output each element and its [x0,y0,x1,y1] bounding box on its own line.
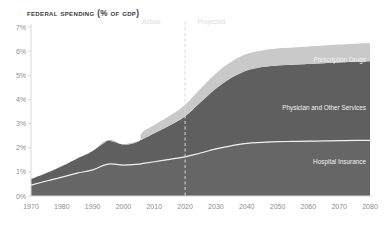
y-tick-label: 1% [16,168,26,175]
x-tick-label: 1970 [23,203,39,210]
x-tick-label: 2050 [270,203,286,210]
x-tick-label: 1990 [85,203,101,210]
y-tick-label: 5% [16,72,26,79]
chart-title: Federal Spending (% of GDP) [27,9,139,18]
series-label-hospital-insurance: Hospital Insurance [313,158,366,166]
y-tick-label: 0% [16,193,26,200]
x-tick-label: 2000 [116,203,132,210]
y-tick-label: 7% [16,24,26,31]
x-tick-label: 1980 [54,203,70,210]
y-tick-label: 4% [16,96,26,103]
x-tick-label: 2020 [177,203,193,210]
x-tick-label: 2010 [146,203,162,210]
x-tick-label: 2040 [239,203,255,210]
y-tick-label: 2% [16,144,26,151]
x-tick-label: 2060 [301,203,317,210]
series-label-prescription-drugs: Prescription Drugs [313,56,366,64]
era-label-projected: Projected [197,18,225,26]
area-chart-plot: 0%1%2%3%4%5%6%7%197019801990200020102020… [0,0,386,229]
chart-container: Federal Spending (% of GDP) 0%1%2%3%4%5%… [0,0,386,229]
y-tick-label: 3% [16,120,26,127]
y-tick-label: 6% [16,48,26,55]
era-label-actual: Actual [142,18,161,25]
x-tick-label: 2030 [208,203,224,210]
series-label-physician-and-other-services: Physician and Other Services [282,104,366,112]
x-tick-label: 2070 [331,203,347,210]
x-tick-label: 2080 [362,203,378,210]
